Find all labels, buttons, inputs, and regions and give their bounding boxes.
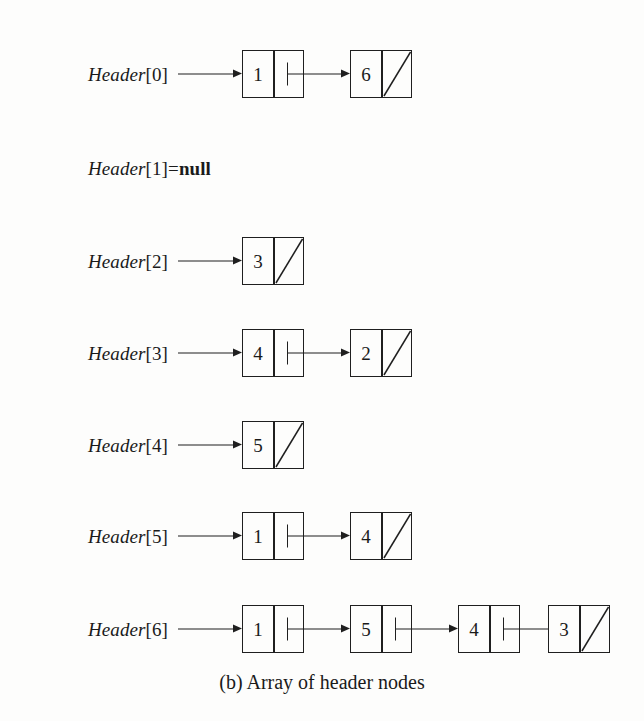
header-label-6-index: [6]	[146, 619, 168, 640]
arrow-node-0-to-node-1	[288, 532, 350, 541]
header-row-0: Header[0] 1 6	[0, 46, 644, 102]
header-label-0: Header[0]	[88, 65, 168, 84]
node-null-pointer	[275, 238, 304, 284]
node-value-row-0-pos-0: 1	[243, 51, 273, 97]
header-label-4-name: Header	[88, 435, 146, 456]
header-label-4: Header[4]	[88, 436, 168, 455]
node-null-pointer	[581, 606, 610, 652]
arrow-node-0-to-node-1	[288, 625, 350, 634]
node-row-4-pos-0: 5	[242, 421, 304, 469]
header-row-5: Header[5] 1 4	[0, 508, 644, 564]
node-row-0-pos-1: 6	[350, 50, 412, 98]
header-label-1-name: Header	[88, 158, 146, 179]
header-label-6-name: Header	[88, 619, 146, 640]
figure-canvas: Header[0] 1 6 Header[1]	[0, 0, 644, 721]
header-label-2-name: Header	[88, 251, 146, 272]
arrow-node-0-to-node-1	[288, 349, 350, 358]
node-row-5-pos-1: 4	[350, 512, 412, 560]
node-value-row-3-pos-1: 2	[351, 330, 381, 376]
arrow-header-3-to-node-0	[178, 349, 242, 358]
header-label-5-index: [5]	[146, 526, 168, 547]
header-label-3: Header[3]	[88, 344, 168, 363]
arrow-header-4-to-node-0	[178, 441, 242, 450]
header-label-1-equals: =	[168, 158, 179, 179]
header-label-3-name: Header	[88, 343, 146, 364]
header-label-1-index: [1]	[146, 158, 168, 179]
node-value-row-6-pos-1: 5	[351, 606, 381, 652]
node-null-pointer	[383, 51, 412, 97]
node-null-pointer	[383, 513, 412, 559]
arrow-node-1-to-node-2	[396, 625, 458, 634]
header-label-6: Header[6]	[88, 620, 168, 639]
node-row-3-pos-1: 2	[350, 329, 412, 377]
node-value-row-6-pos-3: 3	[549, 606, 579, 652]
node-null-pointer	[275, 422, 304, 468]
node-value-row-0-pos-1: 6	[351, 51, 381, 97]
header-label-2: Header[2]	[88, 252, 168, 271]
header-label-0-index: [0]	[146, 64, 168, 85]
node-value-row-6-pos-0: 1	[243, 606, 273, 652]
arrow-header-0-to-node-0	[178, 70, 242, 79]
node-value-row-6-pos-2: 4	[459, 606, 489, 652]
arrow-header-5-to-node-0	[178, 532, 242, 541]
node-value-row-5-pos-0: 1	[243, 513, 273, 559]
header-row-6: Header[6] 1 5 4	[0, 601, 644, 657]
arrow-header-6-to-node-0	[178, 625, 242, 634]
node-value-row-5-pos-1: 4	[351, 513, 381, 559]
node-row-2-pos-0: 3	[242, 237, 304, 285]
node-null-pointer	[383, 330, 412, 376]
node-value-row-3-pos-0: 4	[243, 330, 273, 376]
header-label-0-name: Header	[88, 64, 146, 85]
header-row-4: Header[4] 5	[0, 417, 644, 473]
node-value-row-4-pos-0: 5	[243, 422, 273, 468]
arrow-header-2-to-node-0	[178, 257, 242, 266]
node-row-6-pos-3: 3	[548, 605, 610, 653]
header-row-2: Header[2] 3	[0, 233, 644, 289]
header-label-5-name: Header	[88, 526, 146, 547]
header-label-1-null: null	[179, 158, 211, 179]
arrow-node-0-to-node-1	[288, 70, 350, 79]
header-label-5: Header[5]	[88, 527, 168, 546]
header-label-3-index: [3]	[146, 343, 168, 364]
header-label-2-index: [2]	[146, 251, 168, 272]
header-label-1: Header[1]=null	[88, 159, 211, 178]
node-value-row-2-pos-0: 3	[243, 238, 273, 284]
figure-caption: (b) Array of header nodes	[0, 672, 644, 692]
header-row-1: Header[1]=null	[0, 140, 644, 196]
header-label-4-index: [4]	[146, 435, 168, 456]
header-row-3: Header[3] 4 2	[0, 325, 644, 381]
